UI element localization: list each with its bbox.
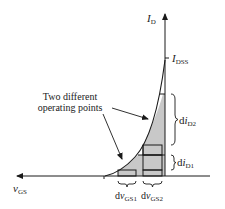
y-axis-label: ID <box>146 12 156 26</box>
annotation-line-1: Two different <box>43 91 98 102</box>
label-dv-gs1: dvGS1 <box>115 190 137 203</box>
annotation-line-2: operating points <box>38 102 103 113</box>
annotation-arrow-upper <box>112 108 148 119</box>
jfet-transfer-characteristic-diagram: ID vGS IDSS Two different operating poin… <box>0 0 225 209</box>
brace-di-d2 <box>171 94 178 145</box>
label-di-d2: diD2 <box>179 114 197 128</box>
brace-dv-gs2 <box>143 181 162 187</box>
brace-dv-gs1 <box>118 181 136 187</box>
idss-label: IDSS <box>171 52 189 66</box>
brace-di-d1 <box>171 155 176 170</box>
shaded-regions <box>118 94 165 176</box>
label-dv-gs2: dvGS2 <box>141 190 163 203</box>
shaded-region-lower <box>118 155 165 176</box>
x-axis-label: vGS <box>13 182 27 196</box>
label-di-d1: diD1 <box>177 156 195 170</box>
annotation-arrow-lower <box>103 114 122 159</box>
